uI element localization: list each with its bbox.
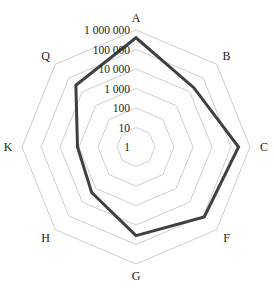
axis-label-f: F (223, 231, 230, 245)
tick-label: 1 (124, 141, 130, 153)
grid-ring-100 (98, 108, 174, 186)
tick-label: 100 (113, 102, 131, 114)
axis-label-b: B (223, 49, 231, 63)
axis-label-h: H (41, 231, 50, 245)
tick-label: 100 000 (93, 44, 131, 56)
grid-ring-1000 (79, 89, 193, 206)
axis-label-c: C (260, 140, 268, 154)
tick-label: 1 000 (104, 83, 130, 95)
grid-ring-1000000 (22, 30, 250, 264)
axis-label-q: Q (41, 49, 50, 63)
grid-ring-100000 (41, 50, 231, 245)
axis-label-a: A (132, 11, 141, 25)
axis-label-k: K (4, 140, 13, 154)
axis-label-g: G (132, 269, 141, 283)
tick-label: 10 000 (98, 63, 130, 75)
axis-labels: ABCFGHKQ (4, 11, 268, 283)
tick-label: 1 000 000 (84, 24, 130, 36)
tick-label: 10 (119, 122, 131, 134)
radar-chart: 1101001 00010 000100 0001 000 000 ABCFGH… (0, 0, 274, 294)
grid-rings (22, 30, 250, 264)
grid-ring-10000 (60, 69, 212, 225)
